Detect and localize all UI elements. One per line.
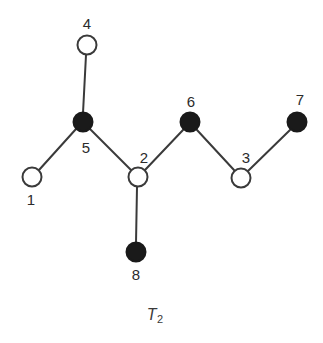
graph-edge-2-6	[145, 130, 183, 170]
graph-node-4[interactable]	[78, 36, 97, 55]
node-label-3: 3	[242, 150, 250, 165]
caption-symbol: T	[147, 306, 157, 323]
graph-node-3[interactable]	[232, 169, 251, 188]
node-label-1: 1	[27, 192, 35, 207]
node-label-4: 4	[83, 16, 91, 31]
graph-edge-6-3	[197, 130, 234, 170]
graph-edge-5-2	[90, 129, 131, 170]
graph-edge-3-7	[248, 130, 290, 171]
graph-node-1[interactable]	[23, 168, 42, 187]
graph-node-7[interactable]	[288, 113, 307, 132]
graph-edge-5-1	[39, 129, 76, 170]
tree-figure: 12345678 T2	[0, 0, 323, 343]
graph-canvas	[0, 0, 323, 343]
node-label-2: 2	[140, 150, 148, 165]
node-label-6: 6	[187, 94, 195, 109]
graph-node-2[interactable]	[129, 168, 148, 187]
node-label-5: 5	[82, 140, 90, 155]
edges-group	[39, 55, 290, 243]
caption-subscript: 2	[157, 313, 163, 325]
graph-node-5[interactable]	[74, 113, 93, 132]
graph-node-6[interactable]	[181, 113, 200, 132]
graph-node-8[interactable]	[127, 243, 146, 262]
node-label-8: 8	[132, 267, 140, 282]
node-label-7: 7	[296, 92, 304, 107]
graph-edge-2-8	[136, 187, 137, 243]
graph-edge-4-5	[83, 55, 86, 113]
figure-caption: T2	[147, 306, 163, 325]
